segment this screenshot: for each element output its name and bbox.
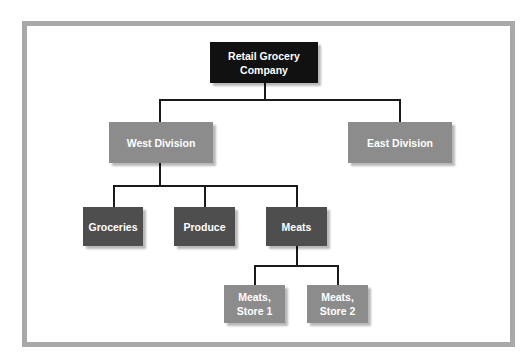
node-meats-store-2: Meats, Store 2 <box>307 285 368 323</box>
connector-east-up <box>399 99 401 122</box>
node-groceries: Groceries <box>83 207 143 246</box>
connector-root-down <box>264 83 266 100</box>
node-meats: Meats <box>266 207 327 246</box>
connector-store2-up <box>337 265 339 285</box>
connector-groceries-up <box>113 185 115 207</box>
node-produce: Produce <box>174 207 235 246</box>
node-retail-grocery-company: Retail Grocery Company <box>210 42 318 83</box>
connector-west-up <box>159 99 161 122</box>
node-west-division: West Division <box>109 122 213 163</box>
node-east-division: East Division <box>348 122 452 163</box>
node-meats-store-1: Meats, Store 1 <box>224 285 285 323</box>
connector-divisions-bar <box>159 99 401 101</box>
connector-produce-up <box>204 185 206 207</box>
connector-store1-up <box>254 265 256 285</box>
connector-west-down <box>159 163 161 186</box>
connector-stores-bar <box>254 265 338 267</box>
connector-meats-up <box>296 185 298 207</box>
connector-meats-down <box>296 246 298 266</box>
